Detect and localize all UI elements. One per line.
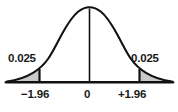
x-tick-label-positive-196: +1.96 xyxy=(118,88,146,100)
x-tick-label-negative-196: −1.96 xyxy=(21,88,49,100)
normal-distribution-chart: 0.025 0.025 −1.96 0 +1.96 xyxy=(0,0,178,112)
right-tail-area-label: 0.025 xyxy=(131,52,159,64)
x-tick-label-zero: 0 xyxy=(84,88,90,100)
left-tail-area-label: 0.025 xyxy=(8,52,36,64)
